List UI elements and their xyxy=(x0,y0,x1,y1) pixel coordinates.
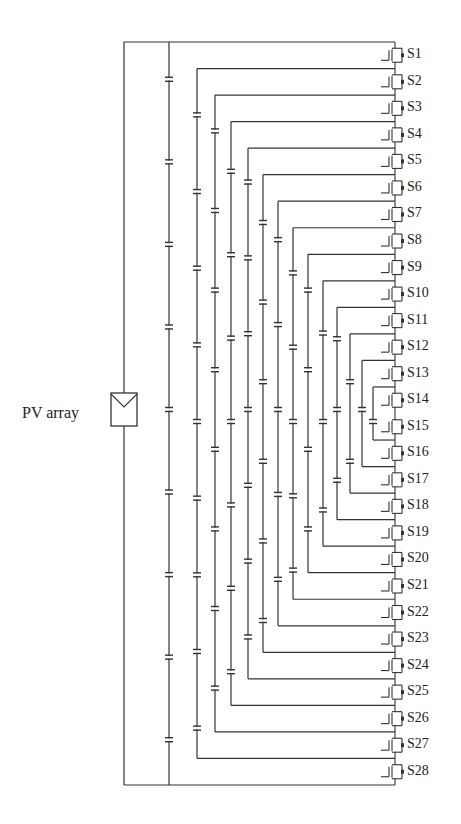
capacitor-icon xyxy=(319,331,327,335)
capacitor-icon xyxy=(193,113,201,117)
capacitor-icon xyxy=(274,577,282,581)
switch-label: S27 xyxy=(407,737,429,751)
switch-label: S19 xyxy=(407,525,429,539)
switch-icon xyxy=(381,95,404,122)
switch-label: S26 xyxy=(407,711,429,725)
capacitor-icon xyxy=(165,77,173,81)
capacitor-icon xyxy=(244,256,252,260)
switch-label: S9 xyxy=(407,260,422,274)
switch-icon xyxy=(381,705,404,732)
switch-icon xyxy=(381,360,404,387)
capacitor-icon xyxy=(165,655,173,659)
capacitor-icon xyxy=(193,649,201,653)
capacitor-icon xyxy=(193,496,201,500)
switch-label: S2 xyxy=(407,74,422,88)
capacitor-icon xyxy=(244,559,252,563)
switch-label: S20 xyxy=(407,551,429,565)
switch-icon xyxy=(381,307,404,334)
switch-icon xyxy=(381,42,404,69)
capacitor-icon xyxy=(227,586,235,590)
switch-label: S17 xyxy=(407,472,429,486)
capacitor-icon xyxy=(289,345,297,349)
switch-label: S8 xyxy=(407,233,422,247)
switch-icon xyxy=(381,520,404,547)
switch-label: S23 xyxy=(407,631,429,645)
capacitor-icon xyxy=(211,607,219,611)
switch-label: S21 xyxy=(407,578,429,592)
switch-icon xyxy=(381,281,404,308)
switch-icon xyxy=(381,493,404,520)
capacitor-icon xyxy=(274,238,282,242)
capacitor-icon xyxy=(165,242,173,246)
switch-label: S4 xyxy=(407,127,422,141)
capacitor-icon xyxy=(227,670,235,674)
switch-label: S1 xyxy=(407,47,422,61)
switch-label: S18 xyxy=(407,498,429,512)
pv-array-icon xyxy=(111,393,137,426)
capacitor-icon xyxy=(358,408,366,412)
switch-icon xyxy=(381,69,404,96)
capacitor-icon xyxy=(211,447,219,451)
capacitor-icon xyxy=(259,539,267,543)
switch-label: S25 xyxy=(407,684,429,698)
switch-label: S3 xyxy=(407,100,422,114)
capacitor-icon xyxy=(165,408,173,412)
switch-icon xyxy=(381,175,404,202)
switch-icon xyxy=(381,652,404,679)
capacitor-icon xyxy=(259,380,267,384)
capacitor-icon xyxy=(211,208,219,212)
capacitor-icon xyxy=(274,323,282,327)
capacitor-icon xyxy=(227,253,235,257)
switch-icon xyxy=(381,254,404,281)
capacitor-icon xyxy=(165,325,173,329)
capacitor-icon xyxy=(211,368,219,372)
switch-label: S24 xyxy=(407,658,429,672)
capacitor-icon xyxy=(289,568,297,572)
switch-icon xyxy=(381,414,404,441)
capacitor-icon xyxy=(227,169,235,173)
capacitor-icon xyxy=(369,420,377,424)
switch-label: S7 xyxy=(407,206,422,220)
switch-label: S11 xyxy=(407,313,428,327)
switch-label: S14 xyxy=(407,392,429,406)
switch-label: S15 xyxy=(407,419,429,433)
capacitor-icon xyxy=(211,527,219,531)
capacitor-icon xyxy=(274,408,282,412)
capacitor-icon xyxy=(244,332,252,336)
capacitor-icon xyxy=(244,408,252,412)
capacitor-icon xyxy=(346,380,354,384)
capacitor-icon xyxy=(165,738,173,742)
switch-label: S16 xyxy=(407,445,429,459)
pv-array-label: PV array xyxy=(22,404,79,422)
capacitor-icon xyxy=(289,271,297,275)
capacitor-icon xyxy=(193,573,201,577)
switch-label: S10 xyxy=(407,286,429,300)
capacitor-icon xyxy=(259,220,267,224)
capacitor-icon xyxy=(319,508,327,512)
capacitor-icon xyxy=(333,408,341,412)
capacitor-icon xyxy=(165,490,173,494)
switch-label: S12 xyxy=(407,339,429,353)
capacitor-icon xyxy=(193,266,201,270)
capacitor-icon xyxy=(289,494,297,498)
switch-icon xyxy=(381,758,404,785)
switch-icon xyxy=(381,679,404,706)
capacitor-icon xyxy=(193,420,201,424)
capacitor-icon xyxy=(211,686,219,690)
capacitor-icon xyxy=(227,503,235,507)
switch-icon xyxy=(381,387,404,414)
capacitor-icon xyxy=(165,573,173,577)
capacitor-icon xyxy=(244,635,252,639)
capacitor-icon xyxy=(193,190,201,194)
capacitor-icon xyxy=(346,459,354,463)
switch-icon xyxy=(381,148,404,175)
capacitor-icon xyxy=(259,300,267,304)
capacitor-icon xyxy=(244,483,252,487)
capacitor-icon xyxy=(289,420,297,424)
switch-icon xyxy=(381,467,404,494)
capacitor-icon xyxy=(211,288,219,292)
switch-label: S6 xyxy=(407,180,422,194)
capacitor-icon xyxy=(274,492,282,496)
capacitor-icon xyxy=(244,180,252,184)
capacitor-icon xyxy=(304,288,312,292)
